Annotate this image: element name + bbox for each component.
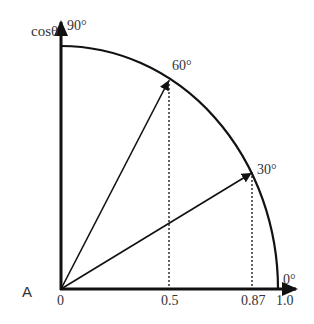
panel-label: A [22,283,32,300]
y-axis-label: cosθ [31,23,58,39]
angle-label-0: 0° [283,272,296,287]
cosine-quarter-circle-diagram: cosθ 90° 60° 30° 0° A 0 0.5 0.87 1.0 [0,0,314,324]
x-tick-0: 0 [57,293,64,308]
x-tick-0-87: 0.87 [241,293,266,308]
x-tick-1-0: 1.0 [276,293,294,308]
angle-label-30: 30° [257,162,277,177]
vector-60 [61,82,168,289]
angle-label-60: 60° [172,58,192,73]
vector-30 [61,174,250,289]
x-tick-0-5: 0.5 [161,293,179,308]
angle-label-90: 90° [67,18,87,33]
